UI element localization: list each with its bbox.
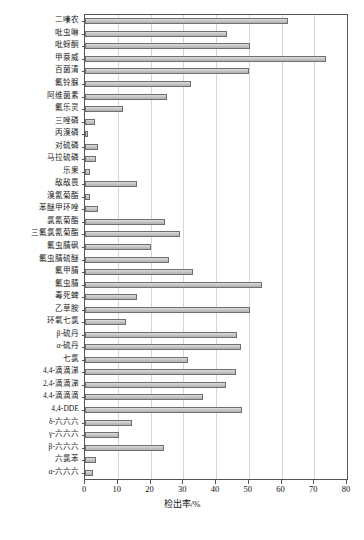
y-axis-tick — [82, 385, 85, 386]
y-axis-tick — [82, 184, 85, 185]
bar — [85, 307, 250, 313]
y-axis-tick — [82, 347, 85, 348]
y-axis-label: 4,4-滴滴涕 — [43, 367, 79, 375]
bar — [85, 344, 241, 350]
bar-row — [85, 281, 347, 289]
y-axis-label: 氟虫腈 — [55, 280, 79, 288]
bar — [85, 282, 262, 288]
bar — [85, 445, 164, 451]
bar — [85, 269, 193, 275]
y-axis-tick — [82, 122, 85, 123]
bar — [85, 319, 126, 325]
y-axis-tick — [82, 397, 85, 398]
bar-row — [85, 180, 347, 188]
bar-series — [85, 15, 347, 479]
y-axis-label: 阿维菌素 — [47, 92, 79, 100]
bar — [85, 457, 96, 463]
y-axis-label: 甲萘威 — [55, 54, 79, 62]
y-axis-tick — [82, 222, 85, 223]
y-axis-tick — [82, 109, 85, 110]
y-axis-label: 二嗪农 — [55, 16, 79, 24]
y-axis-tick — [82, 310, 85, 311]
y-axis-label: 马拉硫磷 — [47, 154, 79, 162]
bar — [85, 394, 203, 400]
y-axis-tick — [82, 473, 85, 474]
chart-figure: 二嗪农吡虫啉吡蚜酮甲萘威百菌清氟铃脲阿维菌素氟乐灵三唑磷丙溴磷对硫磷马拉硫磷乐果… — [0, 0, 364, 540]
plot-area — [84, 14, 348, 480]
y-axis-label: 氟甲腈 — [55, 267, 79, 275]
bar — [85, 257, 169, 263]
y-axis-tick — [82, 197, 85, 198]
bar-row — [85, 130, 347, 138]
x-axis-tick-label: 60 — [276, 484, 285, 494]
y-axis-tick — [82, 322, 85, 323]
x-axis-tick-label: 30 — [178, 484, 187, 494]
bar — [85, 332, 237, 338]
bar — [85, 369, 236, 375]
bar — [85, 119, 95, 125]
y-axis-labels: 二嗪农吡虫啉吡蚜酮甲萘威百菌清氟铃脲阿维菌素氟乐灵三唑磷丙溴磷对硫磷马拉硫磷乐果… — [0, 14, 82, 480]
bar — [85, 81, 191, 87]
y-axis-tick — [82, 159, 85, 160]
bar-row — [85, 456, 347, 464]
bar-row — [85, 268, 347, 276]
y-axis-tick — [82, 34, 85, 35]
x-axis-tick-label: 80 — [342, 484, 351, 494]
bar — [85, 470, 93, 476]
y-axis-tick — [82, 423, 85, 424]
y-axis-tick — [82, 410, 85, 411]
y-axis-label: 毒死蜱 — [55, 292, 79, 300]
y-axis-label: 敌敌畏 — [55, 179, 79, 187]
y-axis-label: 百菌清 — [55, 66, 79, 74]
bar-row — [85, 356, 347, 364]
y-axis-label: δ-六六六 — [49, 418, 79, 426]
y-axis-tick — [82, 360, 85, 361]
y-axis-label: 吡蚜酮 — [55, 41, 79, 49]
bar-row — [85, 30, 347, 38]
bar-row — [85, 469, 347, 477]
y-axis-tick — [82, 460, 85, 461]
y-axis-label: α-六六六 — [48, 468, 79, 476]
x-axis-tick-label: 10 — [113, 484, 122, 494]
y-axis-tick — [82, 59, 85, 60]
bar-row — [85, 67, 347, 75]
bar — [85, 131, 88, 137]
y-axis-label: 七氯 — [63, 355, 79, 363]
bar — [85, 294, 137, 300]
y-axis-label: 氯氰菊酯 — [47, 217, 79, 225]
bar-row — [85, 243, 347, 251]
bar-row — [85, 55, 347, 63]
bar — [85, 382, 226, 388]
bar — [85, 31, 227, 37]
y-axis-tick — [82, 71, 85, 72]
bar-row — [85, 155, 347, 163]
y-axis-tick — [82, 272, 85, 273]
bar — [85, 18, 288, 24]
y-axis-label: 丙溴磷 — [55, 129, 79, 137]
y-axis-label: 乐果 — [63, 167, 79, 175]
y-axis-tick — [82, 46, 85, 47]
x-axis-tick-label: 40 — [211, 484, 220, 494]
bar — [85, 106, 123, 112]
bar-row — [85, 431, 347, 439]
y-axis-tick — [82, 372, 85, 373]
bar — [85, 357, 188, 363]
bar-row — [85, 343, 347, 351]
y-axis-label: 三氟氯氰菊酯 — [31, 229, 79, 237]
bar — [85, 420, 132, 426]
bar-row — [85, 168, 347, 176]
bar — [85, 94, 167, 100]
bar — [85, 231, 180, 237]
y-axis-label: 氟乐灵 — [55, 104, 79, 112]
y-axis-tick — [82, 84, 85, 85]
y-axis-label: 吡虫啉 — [55, 29, 79, 37]
y-axis-label: 4,4-DDE — [51, 405, 79, 413]
y-axis-tick — [82, 247, 85, 248]
bar-row — [85, 80, 347, 88]
y-axis-label: γ-六六六 — [49, 430, 79, 438]
x-axis-title: 检出率/% — [0, 497, 364, 510]
y-axis-tick — [82, 21, 85, 22]
bar-row — [85, 331, 347, 339]
y-axis-label: 六氯苯 — [55, 455, 79, 463]
y-axis-label: α-硫丹 — [56, 342, 79, 350]
